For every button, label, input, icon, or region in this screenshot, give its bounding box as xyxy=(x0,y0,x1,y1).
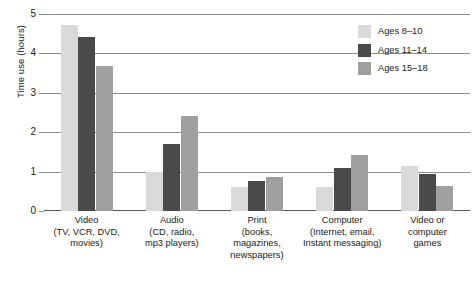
bar xyxy=(316,187,333,211)
bar xyxy=(334,168,351,211)
x-axis-label-line: magazines, xyxy=(214,238,299,250)
x-axis-label-line: newspapers) xyxy=(214,250,299,262)
x-axis-label-line: movies) xyxy=(44,238,129,250)
x-axis-label-line: mp3 players) xyxy=(129,238,214,250)
bar xyxy=(231,187,248,211)
x-axis-label-line: Print xyxy=(214,215,299,227)
x-axis-label-line: (books, xyxy=(214,227,299,239)
bar-group xyxy=(129,14,214,211)
y-axis-tick-label: 5 xyxy=(18,9,36,19)
bar xyxy=(146,172,163,211)
bar-chart: Time use (hours) 012345 Video(TV, VCR, D… xyxy=(0,0,475,282)
x-axis-label-line: games xyxy=(385,238,470,250)
y-axis-title: Time use (hours) xyxy=(15,0,26,142)
x-axis-label-line: computer xyxy=(385,227,470,239)
legend-swatch xyxy=(358,62,371,75)
y-axis-tick-label: 1 xyxy=(18,167,36,177)
x-axis-label-line: (TV, VCR, DVD, xyxy=(44,227,129,239)
y-axis-tick-label: 4 xyxy=(18,48,36,58)
bar-group xyxy=(44,14,129,211)
x-axis-label-line: Audio xyxy=(129,215,214,227)
legend-item: Ages 15–18 xyxy=(358,61,470,77)
x-axis-category-label: Video orcomputergames xyxy=(385,215,470,250)
y-axis-tick-label: 3 xyxy=(18,88,36,98)
legend-swatch xyxy=(358,44,371,57)
x-axis-category-label: Audio(CD, radio,mp3 players) xyxy=(129,215,214,250)
bar xyxy=(181,116,198,211)
legend-item: Ages 11–14 xyxy=(358,43,470,59)
bar xyxy=(419,174,436,211)
legend-label: Ages 11–14 xyxy=(378,45,427,56)
legend: Ages 8–10Ages 11–14Ages 15–18 xyxy=(358,24,470,80)
x-axis-label-line: (CD, radio, xyxy=(129,227,214,239)
bar-group xyxy=(214,14,299,211)
bar xyxy=(266,177,283,211)
bar xyxy=(351,155,368,211)
x-axis-category-label: Print(books,magazines,newspapers) xyxy=(214,215,299,261)
bar xyxy=(78,37,95,211)
bar xyxy=(401,166,418,211)
legend-label: Ages 15–18 xyxy=(378,63,428,74)
legend-swatch xyxy=(358,25,371,38)
bar xyxy=(248,181,265,211)
bar xyxy=(436,186,453,211)
x-axis-category-label: Video(TV, VCR, DVD,movies) xyxy=(44,215,129,250)
x-axis-category-label: Computer(Internet, email,Instant messagi… xyxy=(300,215,385,250)
x-axis-label-line: Video or xyxy=(385,215,470,227)
bar xyxy=(163,144,180,211)
legend-label: Ages 8–10 xyxy=(378,26,422,37)
x-axis-label-line: Video xyxy=(44,215,129,227)
x-axis-label-line: Instant messaging) xyxy=(300,238,385,250)
x-axis-label-line: (Internet, email, xyxy=(300,227,385,239)
x-axis-label-line: Computer xyxy=(300,215,385,227)
x-axis-category-labels: Video(TV, VCR, DVD,movies)Audio(CD, radi… xyxy=(44,215,470,281)
bar xyxy=(61,25,78,211)
bar xyxy=(96,66,113,211)
legend-item: Ages 8–10 xyxy=(358,24,470,40)
y-axis-tick xyxy=(39,211,44,212)
y-axis-tick-label: 0 xyxy=(18,206,36,216)
y-axis-tick-label: 2 xyxy=(18,127,36,137)
